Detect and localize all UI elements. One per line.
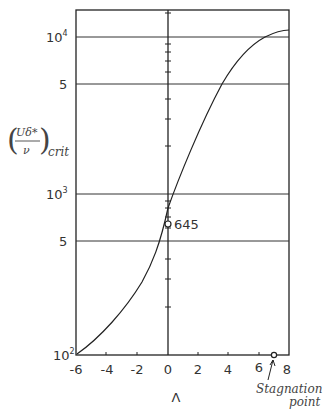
- svg-text:104: 104: [46, 29, 68, 45]
- svg-text:-4: -4: [101, 362, 114, 377]
- svg-text:102: 102: [53, 347, 75, 363]
- svg-text:-6: -6: [70, 362, 83, 377]
- plot-frame: [76, 10, 289, 355]
- y-axis-label: ( Uδ* ν ) crit: [7, 122, 69, 159]
- svg-text:6: 6: [255, 360, 263, 375]
- svg-text:5: 5: [59, 77, 67, 92]
- stagnation-label-line2: point: [289, 395, 320, 409]
- svg-text:4: 4: [224, 362, 232, 377]
- point-645-marker: [165, 221, 171, 227]
- chart: 645 Stagnation point 104 5 103 5 102 ( U…: [0, 0, 331, 414]
- svg-text:Uδ*: Uδ*: [16, 126, 38, 139]
- stagnation-point-marker: [271, 352, 276, 357]
- x-axis-label: Λ: [172, 390, 181, 405]
- x-tick-labels: -6 -4 -2 0 2 4 6 8: [70, 360, 292, 377]
- gridlines: [76, 37, 289, 241]
- svg-text:0: 0: [164, 362, 172, 377]
- y-tick-labels: 104 5 103 5 102: [46, 29, 75, 363]
- critical-reynolds-curve: [77, 30, 289, 354]
- point-645-label: 645: [174, 217, 199, 232]
- svg-text:103: 103: [46, 186, 68, 202]
- stagnation-arrow-icon: [268, 360, 275, 380]
- stagnation-label-line1: Stagnation: [256, 382, 322, 396]
- svg-text:2: 2: [194, 362, 202, 377]
- svg-text:8: 8: [283, 362, 291, 377]
- svg-text:-2: -2: [131, 362, 144, 377]
- svg-text:5: 5: [59, 234, 67, 249]
- svg-text:ν: ν: [23, 144, 30, 157]
- svg-text:crit: crit: [48, 145, 69, 159]
